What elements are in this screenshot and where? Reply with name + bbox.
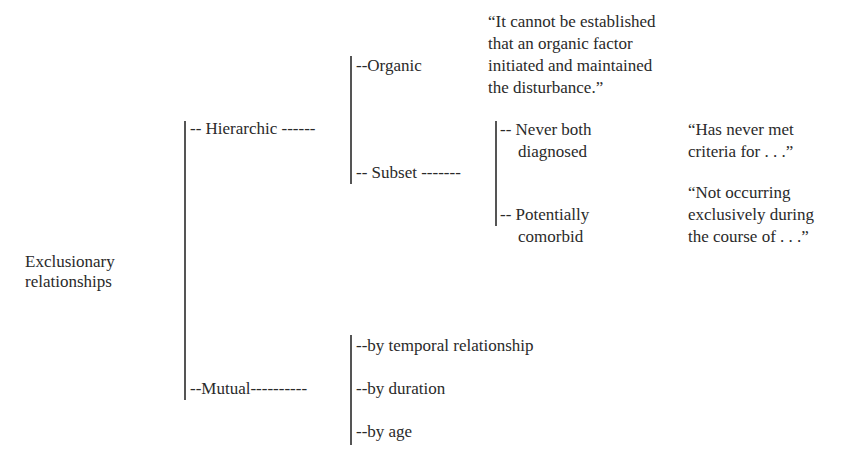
branch-never-both-line1: -- Never both: [500, 120, 592, 140]
potentially-quote-line1: “Not occurring: [688, 183, 790, 203]
branch-organic: --Organic: [356, 56, 422, 76]
never-both-quote-line2: criteria for . . .”: [688, 142, 793, 162]
mutual-child-duration: --by duration: [356, 379, 445, 399]
organic-quote-line2: that an organic factor: [488, 34, 633, 54]
subset-bracket-line: [495, 121, 497, 226]
branch-hierarchic: -- Hierarchic ------: [190, 119, 316, 139]
branch-potentially-line2: comorbid: [518, 227, 583, 247]
mutual-bracket-line: [350, 335, 352, 445]
hierarchic-bracket-line: [350, 56, 352, 184]
level1-bracket-line: [184, 121, 186, 400]
root-label-line1: Exclusionary: [25, 252, 115, 272]
mutual-child-age: --by age: [356, 422, 412, 442]
organic-quote-line4: the disturbance.”: [488, 78, 603, 98]
organic-quote-line1: “It cannot be established: [488, 12, 656, 32]
mutual-child-temporal: --by temporal relationship: [356, 336, 534, 356]
branch-subset: -- Subset -------: [356, 163, 461, 183]
organic-quote-line3: initiated and maintained: [488, 56, 652, 76]
potentially-quote-line3: the course of . . .”: [688, 227, 809, 247]
branch-potentially-line1: -- Potentially: [500, 205, 589, 225]
never-both-quote-line1: “Has never met: [688, 120, 794, 140]
potentially-quote-line2: exclusively during: [688, 205, 814, 225]
root-label-line2: relationships: [25, 272, 112, 292]
branch-mutual: --Mutual----------: [190, 379, 307, 399]
branch-never-both-line2: diagnosed: [518, 142, 587, 162]
